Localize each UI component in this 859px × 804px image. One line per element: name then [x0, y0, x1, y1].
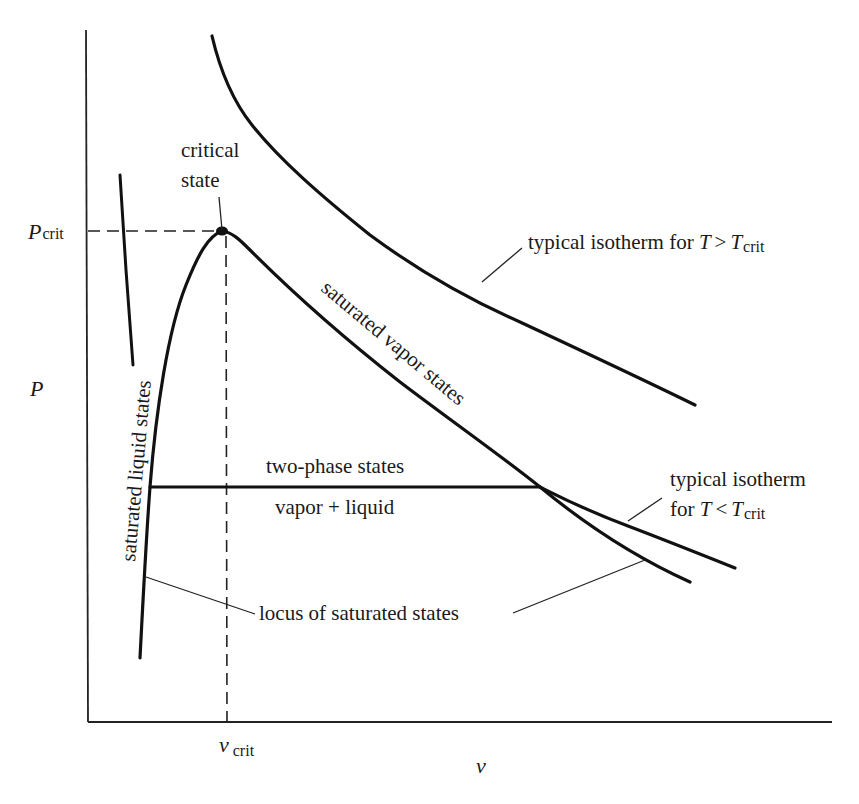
- v-crit-label: vcrit: [219, 732, 255, 759]
- p-crit-main: P: [27, 219, 41, 244]
- saturated-liquid-curve: [140, 231, 222, 658]
- p-crit-label: Pcrit: [27, 219, 64, 244]
- y-axis: [86, 30, 88, 722]
- isotherm-above-T2: T: [730, 230, 743, 254]
- critical-state-pointer: [219, 197, 222, 230]
- v-crit-dashed-line: [226, 236, 227, 722]
- isotherm-above-sub: crit: [743, 238, 765, 255]
- locus-label: locus of saturated states: [259, 601, 459, 625]
- v-crit-main: v: [219, 732, 229, 757]
- isotherm-below-T2: T: [731, 497, 744, 521]
- two-phase-label: two-phase states: [266, 454, 404, 478]
- isotherm-above-pointer: [482, 248, 522, 282]
- isotherm-above-op: >: [715, 230, 727, 254]
- vapor-liquid-label: vapor + liquid: [275, 495, 395, 519]
- x-axis-label: v: [476, 753, 486, 778]
- isotherm-above-text: typical isotherm for: [528, 230, 699, 254]
- isotherm-above-label: typical isotherm for T>Tcrit: [528, 230, 765, 255]
- isotherm-below-sub: crit: [744, 505, 766, 522]
- isotherm-below-label-1: typical isotherm: [670, 467, 806, 491]
- isotherm-below-label-2: for T<Tcrit: [670, 497, 766, 522]
- v-crit-sub: crit: [233, 742, 255, 759]
- isotherm-above-T: T: [699, 230, 712, 254]
- isotherm-below-op: <: [715, 497, 727, 521]
- isotherm-below-pointer: [628, 498, 662, 521]
- pv-diagram: P v Pcrit vcrit critical state typical i…: [0, 0, 859, 804]
- isotherm-below-text: for: [670, 497, 700, 521]
- diagram-svg: P v Pcrit vcrit critical state typical i…: [0, 0, 859, 804]
- saturated-vapor-label: saturated vapor states: [317, 275, 471, 410]
- critical-state-label-1: critical: [181, 138, 239, 162]
- left-stroke-mark: [120, 175, 133, 365]
- critical-state-label-2: state: [181, 168, 219, 192]
- locus-pointer-right: [513, 560, 645, 613]
- p-crit-sub: crit: [42, 225, 64, 242]
- y-axis-label: P: [29, 376, 43, 401]
- isotherm-below-T: T: [700, 497, 713, 521]
- isotherm-above-critical: [212, 36, 695, 405]
- locus-pointer-left: [146, 577, 255, 614]
